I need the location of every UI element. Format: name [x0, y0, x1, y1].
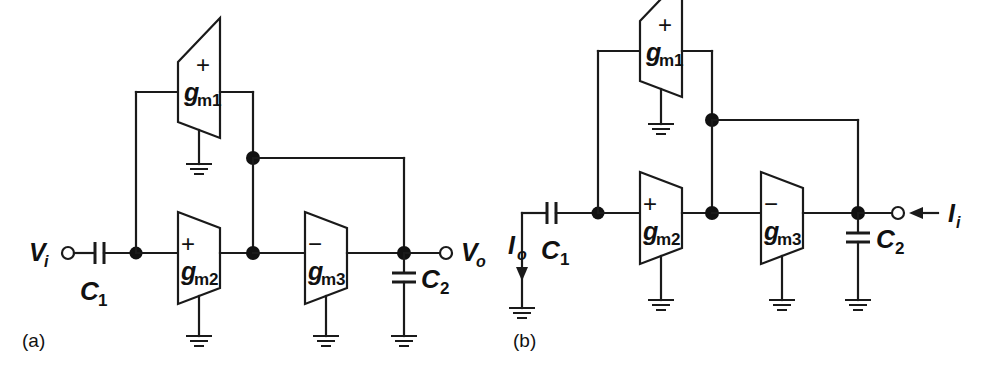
- gm1-a-subscript: m1: [197, 91, 222, 110]
- panel-b-io-branch: [509, 51, 640, 318]
- c2-b-label: C: [876, 224, 896, 254]
- circuit-figure: + g m1 + g m2: [0, 0, 982, 369]
- panel-a-input-branch: [62, 92, 178, 264]
- gm1-b-sign: +: [658, 11, 672, 38]
- c1-b-label: C: [541, 235, 561, 265]
- ground-symbol-gm3-b: [769, 300, 795, 310]
- ii-current-arrow-icon: [909, 207, 923, 219]
- io-current-arrow-icon: [516, 267, 528, 281]
- c2-a-label: C: [421, 264, 441, 294]
- gm3-b-sign: −: [764, 190, 778, 217]
- ground-symbol-gm1-a: [186, 164, 212, 174]
- gm2-a-subscript: m2: [194, 270, 219, 289]
- ground-symbol-io-b: [509, 308, 535, 318]
- amplifier-gm2-b[interactable]: + g m2: [640, 172, 712, 310]
- gm1-b-subscript: m1: [659, 51, 684, 70]
- amplifier-gm1-b[interactable]: + g m1: [640, 0, 684, 134]
- ground-symbol-gm2-b: [648, 300, 674, 310]
- panel-b-output-branch: [845, 206, 938, 310]
- ii-label-subscript: i: [956, 214, 961, 231]
- ii-label: I: [948, 199, 956, 227]
- vi-label-subscript: i: [44, 253, 49, 270]
- ground-symbol-c2-b: [845, 300, 871, 310]
- gm3-b-subscript: m3: [777, 230, 802, 249]
- ground-symbol-gm1-b: [648, 124, 674, 134]
- io-label: I: [508, 231, 516, 259]
- panel-a-caption: (a): [22, 330, 45, 351]
- ground-symbol-gm3-a: [313, 336, 339, 346]
- amplifier-gm3-b[interactable]: − g m3: [761, 172, 858, 310]
- c1-a-label: C: [80, 276, 100, 306]
- ii-terminal-open-circle[interactable]: [892, 207, 904, 219]
- gm2-b-sign: +: [643, 190, 657, 217]
- gm3-a-sign: −: [308, 230, 322, 257]
- vi-terminal-open-circle[interactable]: [62, 247, 74, 259]
- vo-terminal-open-circle[interactable]: [440, 247, 452, 259]
- ground-symbol-gm2-a: [186, 336, 212, 346]
- amplifier-gm2-a[interactable]: + g m2: [178, 212, 253, 346]
- c1-a-label-subscript: 1: [98, 291, 107, 310]
- vo-label-subscript: o: [476, 253, 486, 270]
- panel-b-caption: (b): [513, 330, 536, 351]
- gm2-b-subscript: m2: [656, 230, 681, 249]
- gm1-a-sign: +: [196, 51, 210, 78]
- c2-b-label-subscript: 2: [895, 239, 904, 258]
- c1-b-label-subscript: 1: [560, 250, 569, 269]
- panel-a: + g m1 + g m2: [22, 18, 486, 351]
- gm2-a-sign: +: [181, 230, 195, 257]
- io-label-subscript: o: [517, 246, 527, 263]
- ground-symbol-c2-a: [391, 336, 417, 346]
- amplifier-gm3-a[interactable]: − g m3: [305, 212, 404, 346]
- panel-b: + g m1 + g m2: [508, 0, 961, 351]
- c2-a-label-subscript: 2: [440, 279, 449, 298]
- amplifier-gm1-a[interactable]: + g m1: [178, 18, 222, 174]
- gm3-a-subscript: m3: [321, 270, 346, 289]
